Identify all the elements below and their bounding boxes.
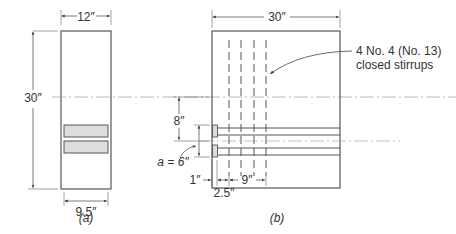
anchor-plate-lower (213, 145, 218, 157)
panel-a-cross-section (28, 10, 111, 206)
dim-height-30: 30″ (24, 91, 42, 105)
bar-lower (64, 141, 108, 153)
beam-diagram: 12″ 30″ 9.5″ (a) (0, 0, 456, 234)
anchor-plate-upper (213, 125, 218, 137)
caption-a: (a) (79, 211, 94, 225)
dim-spacing-8: 8″ (174, 114, 186, 128)
callout-line-1: 4 No. 4 (No. 13) (356, 44, 441, 58)
dim-a-6: a = 6″ (157, 155, 189, 169)
dim-stirrup-span-9: 9″ (242, 173, 254, 187)
panel-b-elevation (174, 10, 400, 188)
bar-upper (64, 125, 108, 137)
dim-length-30: 30″ (268, 10, 286, 24)
dim-cover-1: 1″ (190, 173, 202, 187)
caption-b: (b) (270, 211, 285, 225)
beam-elevation-outline (212, 31, 340, 188)
beam-section-outline (61, 31, 111, 189)
callout-line-2: closed stirrups (356, 58, 433, 72)
dim-width-12: 12″ (77, 10, 95, 24)
dim-first-stirrup-2-5: 2.5″ (214, 186, 236, 200)
